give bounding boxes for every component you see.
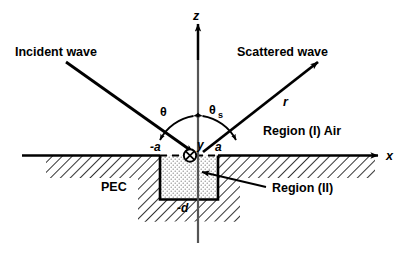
cavity-depth-label: -d <box>177 201 189 215</box>
x-axis-label: x <box>385 149 394 163</box>
radial-distance-label: r <box>283 95 289 109</box>
incident-wave-label: Incident wave <box>15 45 97 59</box>
incident-angle-arc <box>160 116 194 140</box>
right-edge-marker-label: a <box>215 140 222 154</box>
region-two-label: Region (II) <box>272 181 333 195</box>
scattered-wave-label: Scattered wave <box>237 45 328 59</box>
origin-y-into-page-symbol <box>184 149 196 161</box>
diagram-canvas: Incident wave Scattered wave r z x y θ θ… <box>0 0 404 253</box>
region-one-air-label: Region (I) Air <box>263 124 341 138</box>
scattered-angle-subscript: s <box>218 110 223 120</box>
scattered-angle-label: θ <box>209 103 216 117</box>
scattered-wave-ray <box>203 62 318 152</box>
z-axis-label: z <box>192 9 200 23</box>
left-edge-marker-label: -a <box>150 140 161 154</box>
incident-angle-label: θ <box>160 105 167 119</box>
pec-label: PEC <box>101 180 127 194</box>
incident-wave-ray <box>66 62 193 152</box>
scattering-geometry-figure: Incident wave Scattered wave r z x y θ θ… <box>0 0 404 253</box>
y-axis-label: y <box>196 138 205 152</box>
